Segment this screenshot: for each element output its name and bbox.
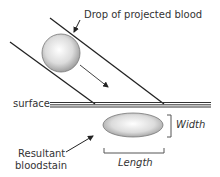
stain-label-line2: bloodstain bbox=[15, 160, 67, 172]
length-bracket bbox=[104, 148, 164, 153]
surface-label: surface bbox=[13, 98, 50, 110]
stain-label-line1: Resultant bbox=[18, 148, 65, 160]
motion-direction-arrow bbox=[80, 65, 108, 87]
blood-drop bbox=[42, 34, 80, 72]
length-label: Length bbox=[118, 157, 153, 169]
stain-pointer-arrow bbox=[66, 136, 93, 152]
width-label: Width bbox=[176, 119, 205, 131]
surface-line bbox=[50, 103, 211, 108]
bloodstain-ellipse bbox=[103, 113, 163, 137]
width-bracket bbox=[167, 115, 171, 137]
drop-pointer-arrow bbox=[74, 20, 80, 32]
drop-label: Drop of projected blood bbox=[84, 9, 202, 21]
